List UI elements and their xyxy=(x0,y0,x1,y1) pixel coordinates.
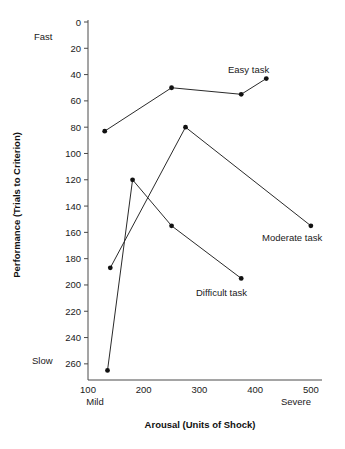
data-point xyxy=(169,223,174,228)
data-point xyxy=(264,76,269,81)
y-tick-label: 80 xyxy=(70,122,81,133)
y-tick-label: 160 xyxy=(65,227,81,238)
series-line-difficult-task xyxy=(108,180,242,371)
yerkes-dodson-chart: 020406080100120140160180200220240260 100… xyxy=(0,0,345,449)
y-tick-label: 20 xyxy=(70,43,81,54)
y-tick-label: 120 xyxy=(65,174,81,185)
x-tick-label: 300 xyxy=(191,384,207,395)
x-anchor-mild: Mild xyxy=(86,396,103,407)
x-tick-label: 400 xyxy=(247,384,263,395)
data-point xyxy=(239,92,244,97)
y-tick-label: 180 xyxy=(65,253,81,264)
series-lines-group xyxy=(105,79,311,371)
y-tick-label: 60 xyxy=(70,95,81,106)
y-tick-label: 140 xyxy=(65,201,81,212)
data-point xyxy=(183,125,188,130)
y-tick-label: 220 xyxy=(65,306,81,317)
y-tick-label: 200 xyxy=(65,279,81,290)
data-point xyxy=(130,177,135,182)
series-label-easy-task: Easy task xyxy=(228,64,269,75)
series-label-moderate-task: Moderate task xyxy=(262,232,322,243)
x-anchor-severe: Severe xyxy=(281,396,311,407)
y-tick-label: 260 xyxy=(65,358,81,369)
data-point xyxy=(108,265,113,270)
y-tick-label: 40 xyxy=(70,69,81,80)
data-point xyxy=(102,129,107,134)
data-point xyxy=(308,223,313,228)
y-axis-tick-labels: 020406080100120140160180200220240260 xyxy=(65,17,81,370)
y-axis-title: Performance (Trials to Criterion) xyxy=(11,132,22,278)
x-tick-label: 100 xyxy=(80,384,96,395)
y-anchor-slow: Slow xyxy=(32,355,53,366)
x-tick-label: 200 xyxy=(136,384,152,395)
x-tick-label: 500 xyxy=(303,384,319,395)
series-line-moderate-task xyxy=(110,127,311,268)
x-axis-title: Arousal (Units of Shock) xyxy=(145,419,256,430)
y-tick-label: 0 xyxy=(76,17,81,28)
data-point xyxy=(105,368,110,373)
y-tick-label: 240 xyxy=(65,332,81,343)
y-axis-ticks xyxy=(84,22,88,364)
x-axis-tick-labels: 100200300400500 xyxy=(80,384,319,395)
series-label-difficult-task: Difficult task xyxy=(196,287,247,298)
chart-plot-area: 020406080100120140160180200220240260 100… xyxy=(0,0,345,449)
y-anchor-fast: Fast xyxy=(34,31,53,42)
series-line-easy-task xyxy=(105,79,267,132)
data-point xyxy=(169,85,174,90)
data-point xyxy=(239,276,244,281)
y-tick-label: 100 xyxy=(65,148,81,159)
